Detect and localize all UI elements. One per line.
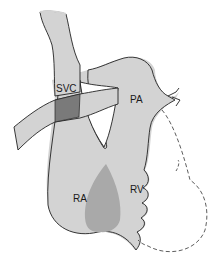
label-svc: SVC xyxy=(56,84,77,94)
lv-inner-dash xyxy=(176,160,179,171)
label-ra: RA xyxy=(73,194,87,204)
label-rv: RV xyxy=(130,185,144,195)
label-pa: PA xyxy=(130,95,143,105)
heart-diagram xyxy=(0,0,217,268)
